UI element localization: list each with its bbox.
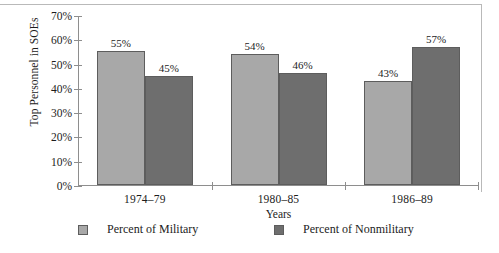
y-tick-label: 50%: [26, 59, 72, 71]
legend-label-nonmilitary: Percent of Nonmilitary: [303, 222, 414, 237]
legend-swatch-nonmilitary-icon: [274, 225, 284, 235]
y-tick-label: 40%: [26, 83, 72, 95]
legend-item-nonmilitary: Percent of Nonmilitary: [274, 222, 414, 237]
x-tick-mark: [212, 182, 213, 190]
bar-value-label: 55%: [111, 37, 131, 49]
legend-item-military: Percent of Military: [78, 222, 274, 237]
bar-value-label: 43%: [378, 67, 398, 79]
y-tick-mark: [74, 65, 82, 66]
x-axis-line: [78, 185, 479, 186]
bar-chart-figure: Top Personnel in SOEs 0%10%20%30%40%50%6…: [0, 0, 499, 253]
y-tick-mark: [74, 16, 82, 17]
y-tick-mark: [74, 186, 82, 187]
x-tick-mark: [345, 182, 346, 190]
y-tick-label: 60%: [26, 34, 72, 46]
y-tick-label: 10%: [26, 156, 72, 168]
bar: 57%: [412, 47, 460, 185]
y-axis-line: [78, 16, 79, 186]
y-tick-mark: [74, 162, 82, 163]
bar-value-label: 45%: [159, 62, 179, 74]
legend-label-military: Percent of Military: [107, 222, 198, 237]
y-tick-label: 0%: [26, 180, 72, 192]
bar-value-label: 46%: [292, 59, 312, 71]
x-axis-title: Years: [78, 208, 479, 220]
bar: 45%: [145, 76, 193, 185]
bar: 55%: [97, 51, 145, 185]
x-tick-mark: [478, 182, 479, 190]
x-category-label: 1974–79: [124, 193, 166, 205]
y-tick-mark: [74, 89, 82, 90]
y-tick-label: 70%: [26, 10, 72, 22]
x-category-label: 1986–89: [391, 193, 433, 205]
chart-legend: Percent of Military Percent of Nonmilita…: [78, 222, 482, 237]
y-tick-mark: [74, 113, 82, 114]
plot-area: 0%10%20%30%40%50%60%70% 55%45%54%46%43%5…: [78, 16, 479, 186]
x-category-label: 1980–85: [258, 193, 300, 205]
legend-swatch-military-icon: [78, 225, 88, 235]
y-tick-mark: [74, 40, 82, 41]
bar: 54%: [231, 54, 279, 185]
y-tick-label: 20%: [26, 131, 72, 143]
bar-value-label: 57%: [426, 33, 446, 45]
y-tick-mark: [74, 137, 82, 138]
bar: 43%: [364, 81, 412, 185]
y-tick-label: 30%: [26, 107, 72, 119]
bar-value-label: 54%: [244, 40, 264, 52]
bar: 46%: [279, 73, 327, 185]
